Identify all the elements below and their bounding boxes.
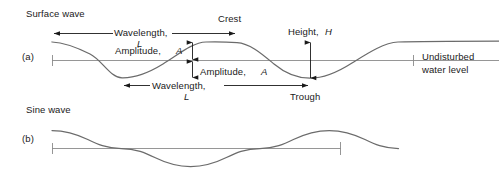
crest-label: Crest: [218, 13, 241, 24]
wave-diagram-svg: [0, 0, 499, 171]
undisturbed-level-label-line1: Undisturbed: [422, 51, 474, 62]
amplitude-lower-symbol: A: [261, 66, 267, 77]
surface-wave-title: Surface wave: [26, 8, 85, 19]
panel-b-group: [52, 131, 399, 167]
wave-anatomy-figure: Surface wave (a) Wavelength, L Crest Amp…: [0, 0, 499, 171]
wavelength-top-label: Wavelength,: [114, 27, 168, 38]
wavelength-bottom-label: Wavelength,: [152, 80, 206, 91]
panel-b-tag: (b): [22, 133, 34, 144]
wavelength-bottom-symbol: L: [184, 91, 189, 102]
wave-height-symbol: H: [325, 26, 332, 37]
amplitude-upper-label: Amplitude,: [115, 45, 161, 56]
wave-height-label: Height,: [288, 26, 319, 37]
panel-a-tag: (a): [22, 51, 34, 62]
undisturbed-level-label-line2: water level: [422, 64, 469, 75]
amplitude-lower-label: Amplitude,: [200, 66, 246, 77]
trough-label: Trough: [290, 91, 320, 102]
sine-wave-title: Sine wave: [26, 104, 71, 115]
amplitude-upper-symbol: A: [176, 45, 182, 56]
